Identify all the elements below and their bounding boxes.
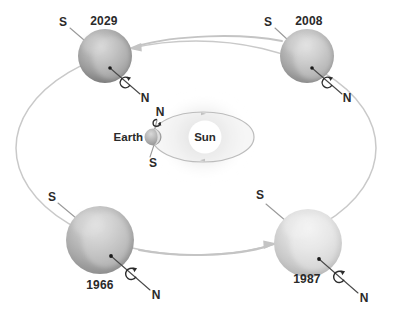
planet-2029-south-pole-label: S bbox=[59, 15, 67, 29]
planet-1966-south-axis-line bbox=[58, 203, 76, 218]
planet-2008-south-axis-line bbox=[275, 28, 288, 40]
planet-2029-axis-dot bbox=[108, 66, 112, 70]
planet-1966-north-axis-line bbox=[111, 256, 150, 290]
earth-south-pole-label: S bbox=[149, 156, 157, 170]
planet-2029-south-axis-line bbox=[70, 28, 84, 40]
diagram-canvas: Sun Earth N S bbox=[0, 0, 393, 314]
planet-1987-south-pole-label: S bbox=[256, 188, 264, 202]
planet-1966-south-pole-label: S bbox=[48, 190, 56, 204]
planet-2008-group: S 2008 N bbox=[264, 14, 351, 105]
orbit-direction-arrow-bottom bbox=[139, 240, 277, 255]
planet-1987-specular bbox=[283, 214, 313, 238]
planet-2008-year-label: 2008 bbox=[295, 14, 323, 28]
earth-label: Earth bbox=[114, 131, 143, 143]
sun-label: Sun bbox=[194, 131, 216, 143]
planet-1987-north-axis-line bbox=[319, 259, 358, 293]
planet-1987-rotation-arrowhead bbox=[340, 270, 345, 275]
planet-1966-north-pole-label: N bbox=[152, 288, 161, 302]
planet-1966-axis-dot bbox=[109, 254, 113, 258]
planet-1987-north-pole-label: N bbox=[360, 291, 369, 305]
planet-2008-north-pole-label: N bbox=[343, 91, 352, 105]
planet-2029-group: S 2029 N bbox=[59, 14, 149, 105]
planet-1987-year-label: 1987 bbox=[293, 272, 321, 286]
planet-2008-south-pole-label: S bbox=[264, 15, 272, 29]
planet-2029-year-label: 2029 bbox=[90, 14, 118, 28]
planet-1987-south-axis-line bbox=[266, 204, 286, 221]
planet-2029-specular bbox=[82, 34, 106, 54]
inner-solar-system: Sun bbox=[152, 95, 254, 179]
planet-2008-axis-dot bbox=[310, 66, 314, 70]
planet-1966-specular bbox=[73, 212, 103, 236]
orbit-diagram: Sun Earth N S bbox=[0, 0, 393, 314]
planet-2008-specular bbox=[285, 34, 309, 54]
planet-2029-rotation-arrowhead bbox=[127, 76, 131, 81]
planet-2029-north-pole-label: N bbox=[141, 91, 150, 105]
planet-1987-group: S 1987 N bbox=[256, 188, 368, 305]
planet-1966-year-label: 1966 bbox=[86, 278, 114, 292]
earth-group: Earth N S bbox=[114, 105, 165, 170]
planet-1987-axis-dot bbox=[317, 257, 321, 261]
planet-1966-rotation-arrowhead bbox=[132, 267, 137, 272]
earth-north-pole-label: N bbox=[156, 105, 165, 119]
planet-1966-group: S 1966 N bbox=[48, 190, 160, 302]
